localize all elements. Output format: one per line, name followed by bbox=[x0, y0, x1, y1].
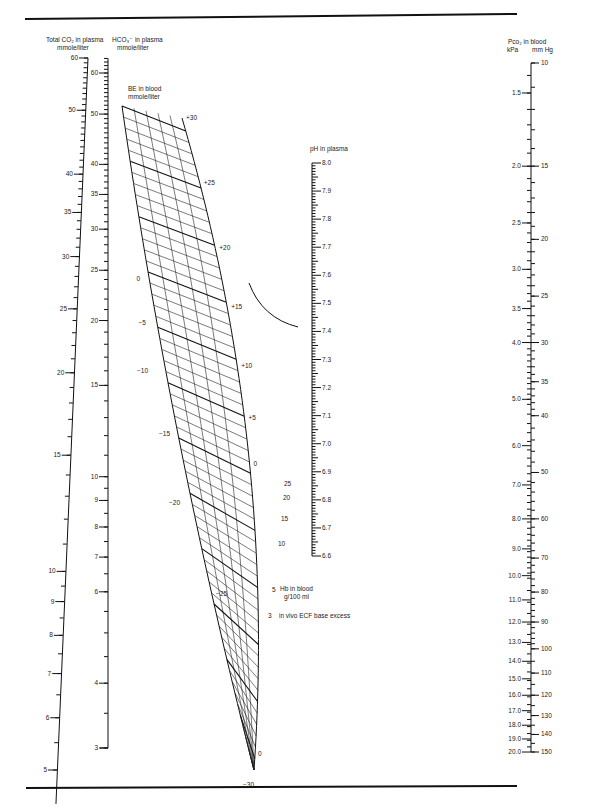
be-line bbox=[217, 615, 259, 656]
be-line bbox=[181, 449, 252, 485]
ph-tick-label: 7.5 bbox=[322, 299, 331, 306]
be-unit: mmole/liter bbox=[128, 93, 161, 100]
be-line bbox=[124, 117, 189, 142]
pco2-kpa-label: 2.0 bbox=[512, 162, 521, 169]
total-co2-tick-label: 20 bbox=[57, 369, 65, 376]
pco2-mmhg-label: 110 bbox=[541, 669, 552, 676]
be-line bbox=[204, 560, 258, 599]
total-co2-tick-label: 7 bbox=[48, 670, 52, 677]
hco3-tick-label: 35 bbox=[91, 190, 99, 197]
be-line bbox=[162, 349, 240, 382]
be-line bbox=[134, 183, 207, 210]
hco3-tick-label: 3 bbox=[94, 744, 98, 751]
ecf-be-title: in vivo ECF base excess bbox=[279, 612, 351, 619]
pco2-mmhg-label: 70 bbox=[541, 554, 549, 561]
ph-tick-label: 7.6 bbox=[322, 271, 331, 278]
be-line bbox=[188, 482, 255, 519]
ph-tick-label: 7.2 bbox=[322, 384, 331, 391]
be-left-label: −30 bbox=[243, 781, 254, 788]
pco2-title: Pco₂ in blood bbox=[508, 38, 547, 45]
ph-tick-label: 6.8 bbox=[322, 496, 331, 503]
total-co2-tick-label: 10 bbox=[48, 567, 56, 574]
top-rule bbox=[25, 14, 517, 19]
hco3-tick-label: 20 bbox=[91, 317, 99, 324]
be-line bbox=[195, 515, 257, 553]
pco2-kpa-label: 12.0 bbox=[508, 618, 521, 625]
pco2-kpa-label: 3.0 bbox=[512, 265, 521, 272]
pco2-mmhg-label: 20 bbox=[541, 235, 549, 242]
pco2-kpa-label: 6.0 bbox=[512, 442, 521, 449]
be-line bbox=[158, 327, 236, 359]
ph-tick-label: 8.0 bbox=[322, 159, 331, 166]
be-line bbox=[219, 626, 258, 667]
pco2-mmhg-label: 80 bbox=[541, 588, 549, 595]
pco2-unit-kpa: kPa bbox=[507, 46, 519, 53]
hb-label: 20 bbox=[283, 494, 291, 501]
be-line bbox=[164, 361, 241, 394]
be-right-label: +30 bbox=[186, 114, 197, 121]
hco3-unit: mmole/liter bbox=[117, 44, 150, 51]
be-line bbox=[135, 195, 209, 223]
ecf-reference-curve bbox=[249, 283, 298, 327]
be-left-label: −10 bbox=[137, 367, 148, 374]
be-right-label: +5 bbox=[248, 414, 256, 421]
pco2-kpa-label: 20.0 bbox=[508, 748, 521, 755]
hco3-tick-label: 7 bbox=[94, 553, 98, 560]
be-line bbox=[125, 128, 192, 154]
total-co2-tick-label: 35 bbox=[64, 208, 72, 215]
be-title: BE in blood bbox=[128, 85, 162, 92]
pco2-kpa-label: 4.0 bbox=[512, 339, 521, 346]
pco2-unit-mmhg: mm Hg bbox=[532, 46, 553, 54]
be-right-label: +15 bbox=[231, 303, 242, 310]
pco2-kpa-label: 14.0 bbox=[508, 657, 521, 664]
pco2-kpa-label: 13.0 bbox=[508, 638, 521, 645]
pco2-kpa-label: 9.0 bbox=[512, 545, 521, 552]
be-line bbox=[197, 527, 257, 565]
hco3-tick-label: 9 bbox=[94, 496, 98, 503]
pco2-mmhg-label: 120 bbox=[541, 691, 552, 698]
hb-label: 10 bbox=[278, 540, 286, 547]
ph-tick-label: 6.7 bbox=[322, 524, 331, 531]
be-line bbox=[192, 504, 255, 541]
total-co2-tick-label: 5 bbox=[43, 766, 47, 773]
be-line bbox=[122, 106, 186, 131]
pco2-kpa-label: 18.0 bbox=[508, 721, 521, 728]
be-line bbox=[179, 438, 251, 473]
total-co2-tick-label: 60 bbox=[71, 54, 79, 61]
be-line bbox=[132, 172, 204, 199]
pco2-mmhg-label: 10 bbox=[541, 59, 549, 66]
total-co2-title: Total CO₂ in plasma bbox=[46, 36, 104, 44]
be-line bbox=[168, 383, 244, 417]
hb-line bbox=[170, 116, 254, 770]
total-co2-tick-label: 30 bbox=[62, 253, 70, 260]
ph-tick-label: 7.8 bbox=[322, 215, 331, 222]
hb-line bbox=[134, 108, 254, 770]
pco2-mmhg-label: 150 bbox=[541, 748, 552, 755]
be-line bbox=[130, 161, 201, 188]
be-line bbox=[177, 427, 250, 462]
be-line bbox=[183, 460, 252, 496]
ph-tick-label: 7.4 bbox=[322, 327, 331, 334]
be-line bbox=[154, 305, 233, 336]
be-line bbox=[232, 681, 257, 724]
pco2-kpa-label: 7.0 bbox=[512, 481, 521, 488]
hco3-tick-label: 60 bbox=[91, 69, 99, 76]
pco2-kpa-label: 19.0 bbox=[508, 735, 521, 742]
pco2-kpa-label: 15.0 bbox=[508, 675, 521, 682]
be-line bbox=[190, 493, 255, 530]
total-co2-tick-label: 15 bbox=[53, 451, 61, 458]
be-left-label: −5 bbox=[139, 319, 147, 326]
be-right-label: +25 bbox=[204, 179, 215, 186]
be-line bbox=[202, 549, 258, 588]
pco2-kpa-label: 3.5 bbox=[512, 305, 521, 312]
ph-tick-label: 7.1 bbox=[322, 412, 331, 419]
be-left-label: 0 bbox=[136, 275, 140, 282]
pco2-mmhg-label: 50 bbox=[541, 468, 549, 475]
hco3-title: HCO₃⁻ in plasma bbox=[112, 36, 163, 44]
ph-title: pH in plasma bbox=[310, 145, 348, 153]
nomogram-canvas: Total CO₂ in plasma mmole/liter HCO₃⁻ in… bbox=[0, 0, 589, 808]
pco2-mmhg-label: 100 bbox=[541, 645, 552, 652]
pco2-mmhg-label: 35 bbox=[541, 378, 549, 385]
total-co2-tick-label: 9 bbox=[51, 598, 55, 605]
pco2-mmhg-label: 25 bbox=[541, 292, 549, 299]
